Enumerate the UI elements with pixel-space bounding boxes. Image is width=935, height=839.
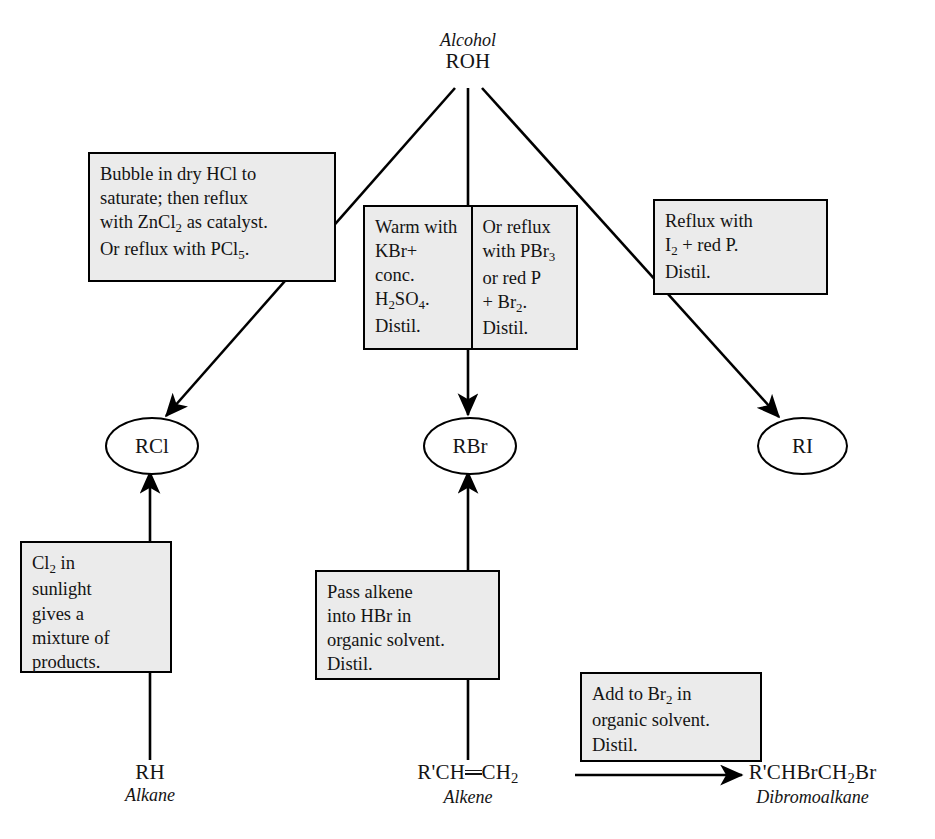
reagent-box-alkene-to-dibromoalkane: Add to Br2 inorganic solvent.Distil. (580, 672, 762, 762)
node-dibromoalkane-formula: R'CHBrCH2Br (700, 761, 925, 787)
node-rbr-label: RBr (452, 434, 487, 459)
node-alkane: RH Alkane (90, 761, 210, 805)
reagent-box-alkane-to-rcl: Cl2 insunlightgives amixture ofproducts. (20, 541, 172, 673)
node-rcl-label: RCl (135, 434, 169, 459)
reagent-box-to-rbr-right: Or refluxwith PBr3or red P+ Br2.Distil. (471, 207, 577, 348)
node-ri: RI (757, 417, 848, 475)
node-alcohol-formula: ROH (408, 50, 528, 74)
node-alkene: R'CHCH2 Alkene (378, 761, 558, 807)
reagent-box-to-rcl: Bubble in dry HCl tosaturate; then reflu… (88, 152, 336, 282)
reagent-box-to-ri: Reflux withI2 + red P.Distil. (653, 199, 828, 295)
reagent-box-alkene-to-rbr: Pass alkeneinto HBr inorganic solvent.Di… (315, 570, 500, 680)
reagent-box-to-rbr-left: Warm withKBr+conc.H2SO4.Distil. (365, 207, 471, 348)
node-alcohol: Alcohol ROH (408, 30, 528, 74)
node-ri-label: RI (792, 434, 813, 459)
diagram-canvas: Alcohol ROH Bubble in dry HCl tosaturate… (0, 0, 935, 839)
node-alkane-formula: RH (90, 761, 210, 785)
node-alkane-name: Alkane (90, 785, 210, 805)
node-alkene-formula: R'CHCH2 (378, 761, 558, 787)
node-alkene-name: Alkene (378, 787, 558, 807)
reagent-box-to-rbr: Warm withKBr+conc.H2SO4.Distil. Or reflu… (363, 205, 578, 350)
node-dibromoalkane: R'CHBrCH2Br Dibromoalkane (700, 761, 925, 807)
node-rbr: RBr (423, 417, 517, 475)
node-rcl: RCl (105, 417, 199, 475)
node-dibromoalkane-name: Dibromoalkane (700, 787, 925, 807)
node-alcohol-name: Alcohol (408, 30, 528, 50)
